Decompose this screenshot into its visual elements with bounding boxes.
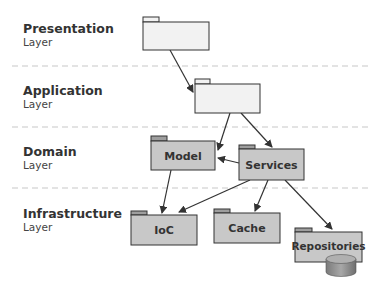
ioc-package[interactable]: IoC: [131, 211, 197, 245]
model-package[interactable]: Model: [151, 136, 215, 170]
database-icon: [326, 255, 356, 277]
ioc-label: IoC: [154, 224, 174, 237]
cache-label: Cache: [228, 222, 265, 235]
architecture-diagram: Model Services IoC Cache Repositories: [0, 0, 376, 285]
dependency-arrows: [162, 50, 332, 229]
application-package[interactable]: [195, 79, 260, 113]
presentation-package[interactable]: [143, 17, 209, 50]
model-label: Model: [164, 150, 202, 163]
cache-package[interactable]: Cache: [214, 209, 280, 243]
services-package[interactable]: Services: [239, 145, 304, 180]
services-label: Services: [245, 159, 298, 172]
repositories-label: Repositories: [291, 240, 365, 252]
